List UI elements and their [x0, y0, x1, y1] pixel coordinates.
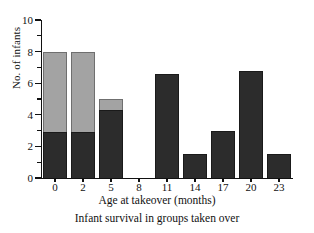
bar-segment-survived	[183, 154, 207, 178]
x-axis-tick-label: 11	[162, 182, 173, 193]
x-axis-title: Age at takeover (months)	[0, 194, 314, 206]
y-axis-tick	[35, 114, 41, 115]
bar-23	[267, 154, 291, 178]
y-axis-tick	[35, 177, 41, 178]
bar-segment-survived	[99, 110, 123, 178]
x-axis-tick-label: 17	[218, 182, 229, 193]
bar-5	[99, 99, 123, 178]
y-axis-minor-tick	[37, 98, 41, 99]
bar-segment-survived	[43, 132, 67, 178]
x-axis-tick-label: 20	[246, 182, 257, 193]
bar-segment-survived	[239, 71, 263, 178]
y-axis-minor-tick	[37, 130, 41, 131]
y-axis-minor-tick	[37, 67, 41, 68]
bar-2	[71, 52, 95, 178]
y-axis-title: No. of infants	[10, 0, 22, 118]
bar-segment-died	[71, 52, 95, 133]
y-axis-tick-label: 10	[22, 15, 33, 26]
bar-segment-survived	[211, 131, 235, 178]
bar-17	[211, 131, 235, 178]
x-axis-tick-label: 8	[136, 182, 142, 193]
x-axis-tick-label: 14	[190, 182, 201, 193]
y-axis-tick	[35, 51, 41, 52]
x-axis-tick-label: 5	[108, 182, 114, 193]
bar-segment-survived	[71, 132, 95, 178]
bar-11	[155, 74, 179, 178]
bar-segment-survived	[267, 154, 291, 178]
y-axis-tick-label: 0	[28, 173, 34, 184]
bar-chart-figure: No. of infants 024681002581114172023 Age…	[0, 0, 314, 233]
y-axis-minor-tick	[37, 35, 41, 36]
bar-14	[183, 154, 207, 178]
y-axis-tick-label: 8	[28, 46, 34, 57]
figure-caption: Infant survival in groups taken over	[0, 212, 314, 224]
y-axis-tick-label: 6	[28, 78, 34, 89]
x-axis-tick-label: 2	[80, 182, 86, 193]
bar-segment-survived	[155, 74, 179, 178]
bar-segment-died	[99, 99, 123, 110]
y-axis-tick	[35, 83, 41, 84]
bar-20	[239, 71, 263, 178]
plot-area: 024681002581114172023	[41, 20, 293, 178]
y-axis-tick	[35, 19, 41, 20]
y-axis-minor-tick	[37, 162, 41, 163]
y-axis-tick	[35, 146, 41, 147]
x-axis-tick-label: 0	[52, 182, 58, 193]
y-axis-tick-label: 4	[28, 109, 34, 120]
bar-segment-died	[43, 52, 67, 133]
x-axis-tick-label: 23	[274, 182, 285, 193]
y-axis-tick-label: 2	[28, 141, 34, 152]
bar-0	[43, 52, 67, 178]
